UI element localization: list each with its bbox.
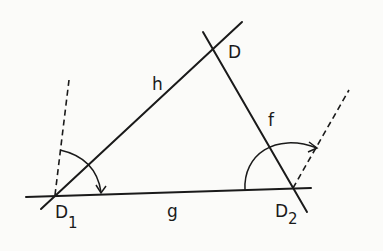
line-f [203, 32, 307, 212]
label-d: D [228, 42, 241, 62]
label-d1: D [55, 202, 68, 222]
line-g [26, 188, 311, 197]
label-g: g [167, 201, 178, 221]
triangle-diagram: h f g D D 1 D 2 [0, 0, 383, 251]
label-d2-subscript: 2 [288, 210, 298, 228]
label-d2: D [275, 201, 288, 221]
dashed-line-d2 [293, 90, 349, 188]
label-f: f [268, 110, 275, 130]
line-h [41, 22, 242, 209]
dashed-line-d1 [55, 80, 69, 195]
label-d1-subscript: 1 [68, 214, 78, 232]
label-h: h [152, 74, 163, 94]
